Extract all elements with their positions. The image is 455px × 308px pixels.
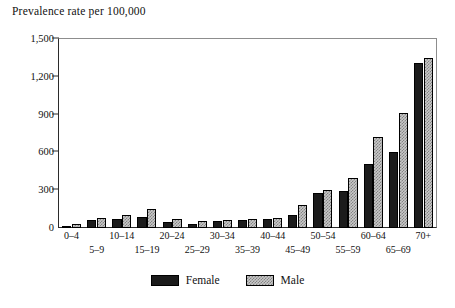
x-axis-tick-label: 5–9 — [89, 244, 104, 255]
x-axis-tick-label: 10–14 — [109, 230, 134, 241]
black-filled-swatch — [151, 275, 179, 286]
bars-layer — [59, 39, 436, 228]
bar-female — [313, 193, 322, 228]
prevalence-rate-bar-chart: Prevalence rate per 100,000 03006009001,… — [0, 0, 455, 308]
bar-female — [163, 222, 172, 228]
bar-male — [122, 215, 131, 228]
x-axis-labels: 0–45–910–1415–1920–2425–2930–3435–3940–4… — [59, 230, 436, 260]
bar-male — [97, 218, 106, 228]
legend-entry-male: Male — [246, 274, 305, 286]
bar-group — [310, 39, 335, 228]
bar-male — [323, 190, 332, 228]
bar-male — [223, 220, 232, 228]
bar-male — [248, 219, 257, 228]
bar-male — [172, 219, 181, 228]
x-axis-tick-label: 35–39 — [235, 244, 260, 255]
bar-male — [147, 209, 156, 228]
bar-group — [109, 39, 134, 228]
bar-female — [137, 217, 146, 228]
x-axis-tick-label: 55–59 — [336, 244, 361, 255]
bar-female — [288, 215, 297, 228]
x-axis-tick-label: 65–69 — [386, 244, 411, 255]
bar-group — [210, 39, 235, 228]
bar-female — [188, 224, 197, 228]
bar-female — [62, 226, 71, 228]
bar-female — [213, 221, 222, 228]
bar-group — [335, 39, 360, 228]
bar-group — [386, 39, 411, 228]
x-axis-tick-label: 15–19 — [134, 244, 159, 255]
legend-entry-female: Female — [151, 274, 220, 286]
bar-female — [414, 63, 423, 228]
bar-group — [260, 39, 285, 228]
x-axis-tick-label: 50–54 — [310, 230, 335, 241]
bar-female — [112, 219, 121, 228]
bar-female — [263, 219, 272, 228]
bar-male — [198, 221, 207, 228]
bar-group — [84, 39, 109, 228]
bar-female — [364, 164, 373, 228]
bar-male — [424, 58, 433, 228]
legend-label: Male — [281, 274, 305, 286]
bar-female — [87, 220, 96, 228]
bar-group — [185, 39, 210, 228]
bar-female — [389, 152, 398, 228]
x-axis-tick-label: 60–64 — [361, 230, 386, 241]
bar-group — [361, 39, 386, 228]
bar-group — [160, 39, 185, 228]
bar-male — [348, 178, 357, 228]
y-axis-labels: 03006009001,2001,500 — [0, 38, 54, 228]
x-axis-tick-label: 30–34 — [210, 230, 235, 241]
bar-group — [411, 39, 436, 228]
bar-group — [235, 39, 260, 228]
bar-female — [339, 191, 348, 228]
bar-female — [238, 220, 247, 228]
legend-label: Female — [186, 274, 220, 286]
chart-legend: FemaleMale — [0, 274, 455, 286]
bar-group — [59, 39, 84, 228]
bar-male — [399, 113, 408, 228]
bar-male — [298, 205, 307, 228]
gray-hatched-swatch — [246, 275, 274, 286]
bar-group — [285, 39, 310, 228]
x-axis-tick-label: 40–44 — [260, 230, 285, 241]
bar-male — [273, 218, 282, 228]
x-axis-tick-label: 70+ — [416, 230, 432, 241]
x-axis-tick-label: 20–24 — [160, 230, 185, 241]
x-axis-tick-label: 0–4 — [64, 230, 79, 241]
bar-group — [134, 39, 159, 228]
x-axis-tick-label: 25–29 — [185, 244, 210, 255]
bar-male — [72, 224, 81, 228]
x-axis-tick-label: 45–49 — [285, 244, 310, 255]
bar-male — [373, 137, 382, 228]
chart-title: Prevalence rate per 100,000 — [12, 5, 146, 17]
